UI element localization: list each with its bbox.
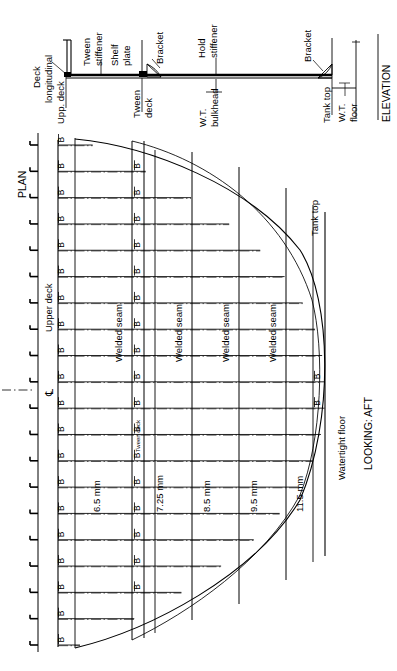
b-marker-strake-2: B bbox=[132, 163, 142, 169]
label-tank-top-elev: Tank top bbox=[321, 87, 332, 123]
b-marker-strake-1: B bbox=[56, 373, 66, 379]
b-marker-strake-2: B bbox=[132, 242, 142, 248]
b-marker-strake-1: B bbox=[56, 347, 66, 353]
b-marker-strake-2: B bbox=[132, 505, 142, 511]
b-marker-strake-1: B bbox=[56, 637, 66, 643]
plate-thickness-label-group: 6.5 mm7.25 mm8.5 mm9.5 mm11.5 mm bbox=[91, 475, 305, 512]
label-hold-stiffener-l1: Hold bbox=[196, 38, 207, 58]
drawing-canvas: Deck longitudinal Upp. deck Tween stiffe… bbox=[0, 0, 397, 671]
b-marker-strake-1: B bbox=[56, 531, 66, 537]
label-hold-stiffener-l2: stiffener bbox=[208, 24, 219, 58]
b-marker-strake-1: B bbox=[56, 584, 66, 590]
b-marker-strake-1: B bbox=[56, 215, 66, 221]
label-shelf-plate-l2: plate bbox=[121, 45, 132, 66]
label-wt-bulkhead-l1: W.T. bbox=[197, 109, 208, 127]
b-marker-strake-2: B bbox=[132, 294, 142, 300]
label-upper-deck-plan: Upper deck bbox=[43, 283, 54, 332]
shelf-plate-joint bbox=[139, 71, 147, 77]
label-bracket-2: Bracket bbox=[302, 29, 313, 62]
b-marker-strake-1: B bbox=[56, 610, 66, 616]
plan-view: PLAN ℄ BBBBBBBBBBBBBBBBBBBBBBBBBBBBBBBBB… bbox=[2, 133, 374, 652]
label-plate-thickness-4: 9.5 mm bbox=[248, 480, 259, 512]
b-marker-strake-5: B bbox=[312, 400, 322, 406]
label-plate-thickness-1: 6.5 mm bbox=[91, 480, 102, 512]
b-marker-strake-1: B bbox=[56, 558, 66, 564]
label-shelf-plate-l1: Shelf bbox=[109, 44, 120, 66]
label-plate-thickness-3: 8.5 mm bbox=[201, 480, 212, 512]
b-marker-strake-2: B bbox=[132, 531, 142, 537]
label-welded-seam-1: Welded seam bbox=[113, 304, 124, 362]
b-marker-strake-2: B bbox=[132, 584, 142, 590]
label-tween-stiffener-l1: Tween bbox=[81, 38, 92, 66]
b-marker-strake-2: B bbox=[132, 268, 142, 274]
centerline-symbol: ℄ bbox=[43, 389, 55, 397]
b-marker-strake-1: B bbox=[56, 321, 66, 327]
label-tween-deck-plan: Tween deck bbox=[135, 419, 141, 452]
b-marker-strake-1: B bbox=[56, 294, 66, 300]
plan-frame-row-group: BBBBBBBBBBBBBBBBBBBBBBBBBBBBBBBBBBBBBBB bbox=[56, 134, 325, 646]
label-tween-deck-l2: deck bbox=[143, 98, 154, 118]
label-wt-bulkhead-l2: bulkhead bbox=[209, 88, 220, 127]
ship-structure-drawing: Deck longitudinal Upp. deck Tween stiffe… bbox=[0, 0, 397, 671]
hull-deck-edge-curve bbox=[75, 139, 325, 648]
b-marker-strake-1: B bbox=[56, 137, 66, 143]
b-marker-strake-1: B bbox=[56, 268, 66, 274]
label-wt-floor-l1: W.T. bbox=[336, 104, 347, 122]
b-marker-strake-5: B bbox=[312, 373, 322, 379]
label-deck-longitudinal-line2: longitudinal bbox=[43, 55, 54, 103]
label-tween-stiffener-l2: stiffener bbox=[93, 32, 104, 66]
b-marker-strake-2: B bbox=[132, 479, 142, 485]
b-marker-strake-1: B bbox=[56, 163, 66, 169]
b-marker-strake-1: B bbox=[56, 189, 66, 195]
deck-longitudinal-joint bbox=[64, 72, 71, 77]
label-tank-top-plan: Tank top bbox=[309, 200, 320, 236]
label-bracket-1: Bracket bbox=[154, 31, 165, 64]
b-marker-strake-2: B bbox=[132, 400, 142, 406]
label-looking-aft: LOOKING: AFT bbox=[362, 396, 374, 470]
b-marker-strake-1: B bbox=[56, 505, 66, 511]
b-marker-strake-2: B bbox=[132, 321, 142, 327]
label-watertight-floor: Watertight floor bbox=[336, 416, 347, 480]
b-marker-strake-2: B bbox=[132, 215, 142, 221]
b-marker-strake-2: B bbox=[132, 452, 142, 458]
frame-tick-group bbox=[30, 141, 38, 645]
label-upper-deck: Upp. deck bbox=[55, 81, 66, 124]
label-wt-floor-l2: floor bbox=[348, 104, 359, 122]
deck-longitudinal-leader bbox=[52, 62, 66, 74]
caption-elevation: ELEVATION bbox=[380, 65, 392, 122]
tank-top-boundary-curve bbox=[132, 141, 320, 640]
b-marker-strake-1: B bbox=[56, 242, 66, 248]
label-welded-seam-2: Welded seam bbox=[173, 304, 184, 362]
label-welded-seam-3: Welded seam bbox=[220, 304, 231, 362]
b-marker-strake-2: B bbox=[132, 347, 142, 353]
bracket-2-leader bbox=[313, 60, 323, 71]
b-marker-strake-2: B bbox=[132, 189, 142, 195]
b-marker-strake-1: B bbox=[56, 400, 66, 406]
b-marker-strake-1: B bbox=[56, 479, 66, 485]
b-marker-strake-2: B bbox=[132, 373, 142, 379]
b-marker-strake-1: B bbox=[56, 426, 66, 432]
label-plate-thickness-2: 7.25 mm bbox=[154, 475, 165, 512]
label-tween-deck-l1: Tween bbox=[131, 90, 142, 118]
b-marker-strake-2: B bbox=[132, 558, 142, 564]
label-welded-seam-4: Welded seam bbox=[267, 304, 278, 362]
label-deck-longitudinal-line1: Deck bbox=[31, 66, 42, 88]
caption-plan: PLAN bbox=[16, 171, 28, 198]
label-plate-thickness-5: 11.5 mm bbox=[294, 476, 305, 512]
b-marker-strake-1: B bbox=[56, 452, 66, 458]
elevation-view: Deck longitudinal Upp. deck Tween stiffe… bbox=[31, 24, 392, 127]
